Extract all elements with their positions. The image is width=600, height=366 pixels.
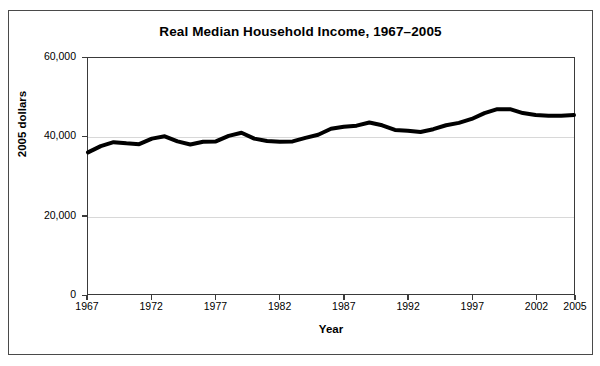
y-tick-mark-60000: [82, 57, 88, 59]
y-tick-label-0: 0: [8, 288, 76, 300]
chart-figure: Real Median Household Income, 1967–2005 …: [0, 0, 600, 366]
x-tick-label-1972: 1972: [121, 300, 181, 312]
x-tick-mark-1967: [86, 295, 88, 300]
line-series-income: [88, 58, 574, 294]
x-tick-label-1977: 1977: [185, 300, 245, 312]
x-tick-label-1997: 1997: [442, 300, 502, 312]
x-tick-label-2005: 2005: [545, 300, 600, 312]
x-tick-label-1982: 1982: [250, 300, 310, 312]
x-tick-mark-1972: [151, 295, 153, 300]
x-tick-mark-1982: [279, 295, 281, 300]
x-axis-title: Year: [87, 323, 575, 335]
x-tick-mark-1992: [407, 295, 409, 300]
x-tick-label-1992: 1992: [378, 300, 438, 312]
y-axis-title: 2005 dollars: [16, 64, 28, 184]
chart-title: Real Median Household Income, 1967–2005: [8, 24, 593, 39]
x-tick-mark-1987: [343, 295, 345, 300]
income-line: [88, 109, 574, 152]
x-tick-mark-1997: [472, 295, 474, 300]
x-tick-label-1967: 1967: [57, 300, 117, 312]
y-tick-mark-40000: [82, 136, 88, 138]
y-tick-label-20000: 20,000: [8, 209, 76, 221]
x-tick-mark-2005: [574, 295, 576, 300]
x-tick-mark-2002: [536, 295, 538, 300]
plot-area: [87, 57, 575, 295]
y-tick-mark-20000: [82, 215, 88, 217]
y-tick-label-60000: 60,000: [8, 50, 76, 62]
x-tick-label-1987: 1987: [314, 300, 374, 312]
x-tick-mark-1977: [215, 295, 217, 300]
